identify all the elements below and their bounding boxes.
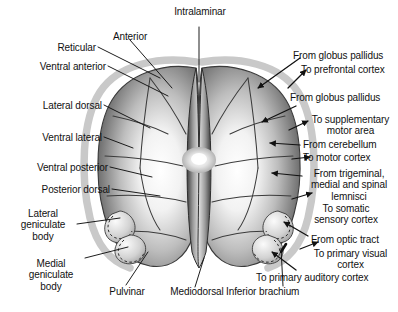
label-to-somatic-sensory-cortex: To somatic sensory cortex: [300, 203, 392, 226]
label-from-globus-pallidus-1: From globus pallidus: [293, 50, 398, 61]
label-medial-geniculate-body: Medial geniculate body: [16, 258, 86, 292]
label-posterior-dorsal: Posterior dorsal: [0, 184, 110, 195]
label-ventral-anterior: Ventral anterior: [0, 61, 106, 72]
label-lateral-geniculate-body: Lateral geniculate body: [8, 208, 78, 242]
label-to-motor-cortex: To motor cortex: [303, 152, 398, 163]
label-from-cerebellum: From cerebellum: [303, 139, 398, 150]
label-ventral-lateral: Ventral lateral: [0, 132, 102, 143]
label-lateral-dorsal: Lateral dorsal: [0, 100, 102, 111]
label-ventral-posterior: Ventral posterior: [0, 162, 108, 173]
label-to-prefrontal-cortex: To prefrontal cortex: [301, 64, 398, 75]
label-from-optic-tract: From optic tract: [311, 234, 398, 245]
label-mediodorsal: Mediodorsal: [160, 286, 234, 297]
label-inferior-brachium: Inferior brachium: [226, 286, 336, 297]
label-pulvinar: Pulvinar: [98, 286, 156, 297]
label-from-trigeminal-lemnisci: From trigeminal, medial and spinal lemni…: [300, 168, 398, 202]
label-intralaminar: Intralaminar: [154, 6, 246, 17]
label-to-primary-visual-cortex: To primary visual cortex: [303, 248, 398, 271]
label-to-supplementary-motor-area: To supplementary motor area: [303, 114, 398, 137]
label-from-globus-pallidus-2: From globus pallidus: [290, 92, 398, 103]
label-to-primary-auditory-cortex: To primary auditory cortex: [256, 272, 398, 283]
label-anterior: Anterior: [88, 31, 172, 42]
label-reticular: Reticular: [0, 42, 96, 53]
